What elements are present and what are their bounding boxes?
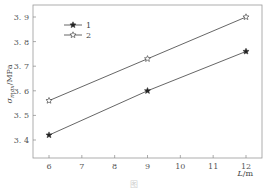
y-tick-label: 3. 4	[14, 136, 29, 145]
figure-caption: 图	[0, 178, 268, 189]
series-2-marker	[144, 56, 150, 62]
y-axis-title-sub: max	[8, 85, 15, 98]
legend-label-1: 1	[86, 21, 91, 30]
y-tick-label: 3. 8	[14, 38, 29, 47]
series-1-marker	[243, 48, 249, 54]
y-axis-title-unit: /MPa	[5, 64, 14, 85]
y-tick-label: 3. 5	[14, 111, 29, 120]
y-tick-label: 3. 6	[14, 87, 29, 96]
x-axis-title-unit: /m	[243, 169, 254, 178]
y-tick-label: 3. 7	[14, 62, 29, 71]
series-1-line	[49, 51, 246, 135]
legend-marker-2	[70, 32, 76, 38]
x-tick-label: 9	[145, 162, 150, 171]
y-tick-label: 3. 9	[14, 13, 29, 22]
x-tick-label: 10	[175, 162, 185, 171]
series-2-marker	[243, 14, 249, 20]
x-axis: 6789101112	[46, 155, 251, 171]
x-tick-label: 11	[208, 162, 218, 171]
legend-label-2: 2	[86, 31, 91, 40]
legend-marker-1	[70, 22, 76, 28]
x-tick-label: 7	[79, 162, 84, 171]
series-1-marker	[144, 88, 150, 94]
plot-frame	[33, 5, 262, 158]
legend: 12	[64, 21, 91, 40]
series-2-marker	[46, 97, 52, 103]
y-axis-title: σmax/MPa	[5, 64, 15, 103]
x-axis-title: L/m	[236, 169, 253, 178]
series-1-marker	[46, 132, 52, 138]
x-tick-label: 6	[46, 162, 51, 171]
chart: 3. 43. 53. 63. 73. 83. 9 6789101112 12 σ…	[0, 0, 268, 193]
x-tick-label: 8	[112, 162, 117, 171]
series-group	[46, 14, 249, 138]
